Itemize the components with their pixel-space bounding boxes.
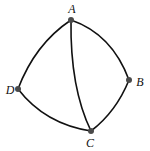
node-a [68,17,74,23]
node-c [88,128,94,134]
edge-c-d [18,89,91,131]
edge-d-a [18,20,71,89]
edge-b-c [91,80,129,131]
edge-a-b [71,20,129,80]
node-label-a: A [68,3,75,15]
graph-svg [0,0,150,151]
node-label-d: D [6,84,15,96]
node-label-c: C [86,137,94,149]
graph-diagram: A B C D [0,0,150,151]
node-d [15,86,21,92]
edge-a-c [71,20,91,131]
node-label-b: B [136,76,143,88]
node-b [126,77,132,83]
